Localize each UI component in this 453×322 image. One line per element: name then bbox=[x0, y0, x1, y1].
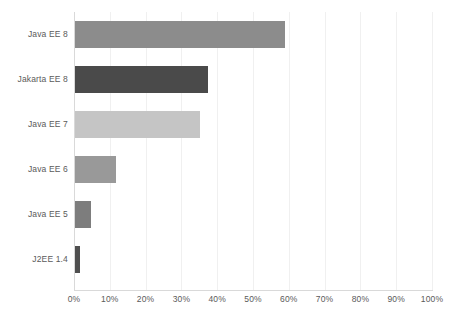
bar-band bbox=[74, 147, 432, 192]
bar-band bbox=[74, 12, 432, 57]
bar-band bbox=[74, 192, 432, 237]
y-axis-tick-label: Java EE 6 bbox=[2, 164, 68, 174]
bar-band bbox=[74, 237, 432, 282]
bar[interactable] bbox=[74, 201, 91, 228]
bar[interactable] bbox=[74, 21, 285, 48]
y-axis-labels: Java EE 8Jakarta EE 8Java EE 7Java EE 6J… bbox=[0, 12, 68, 290]
x-axis-tick-label: 10% bbox=[101, 294, 118, 304]
y-axis-tick-label: Java EE 5 bbox=[2, 209, 68, 219]
x-axis-line bbox=[74, 290, 433, 291]
bar[interactable] bbox=[74, 66, 208, 93]
x-axis-tick-label: 40% bbox=[208, 294, 225, 304]
x-axis-tick-label: 70% bbox=[316, 294, 333, 304]
gridline bbox=[432, 12, 433, 290]
bar-band bbox=[74, 57, 432, 102]
x-axis-tick-label: 60% bbox=[280, 294, 297, 304]
x-axis-tick-label: 0% bbox=[68, 294, 81, 304]
y-axis-tick-label: Java EE 7 bbox=[2, 119, 68, 129]
x-axis-tick-label: 20% bbox=[137, 294, 154, 304]
x-axis-tick-label: 80% bbox=[352, 294, 369, 304]
y-axis-tick-label: J2EE 1.4 bbox=[2, 254, 68, 264]
bar[interactable] bbox=[74, 156, 116, 183]
x-axis-tick-label: 50% bbox=[244, 294, 261, 304]
x-axis-tick-label: 90% bbox=[387, 294, 404, 304]
y-axis-line bbox=[74, 12, 75, 291]
x-axis-tick-label: 30% bbox=[173, 294, 190, 304]
x-axis-labels: 0%10%20%30%40%50%60%70%80%90%100% bbox=[0, 294, 453, 314]
bar-chart: Java EE 8Jakarta EE 8Java EE 7Java EE 6J… bbox=[0, 0, 453, 322]
y-axis-tick-label: Java EE 8 bbox=[2, 29, 68, 39]
bar[interactable] bbox=[74, 111, 200, 138]
bar-band bbox=[74, 102, 432, 147]
x-axis-tick-label: 100% bbox=[421, 294, 443, 304]
plot-area bbox=[74, 12, 432, 290]
y-axis-tick-label: Jakarta EE 8 bbox=[2, 74, 68, 84]
